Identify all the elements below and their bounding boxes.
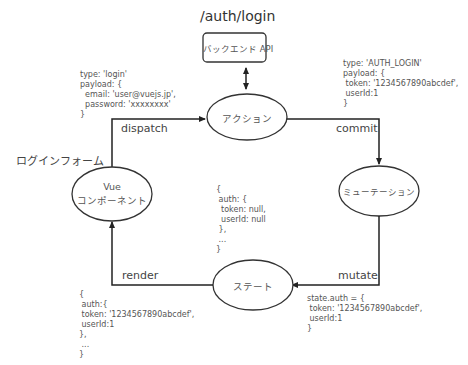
state-label: ステート: [213, 279, 293, 293]
vue-label-line1: Vue: [72, 181, 152, 192]
backend-api-label: バックエンド API: [203, 42, 266, 54]
initial-state-code: { auth: { token: null, userId: null }, .…: [216, 185, 266, 255]
dispatch-payload-code: type: 'login' payload: { email: 'user@vu…: [80, 70, 176, 120]
mutate-code: state.auth = { token: '1234567890abcdef'…: [307, 294, 422, 334]
render-state-code: { auth:{ token: '1234567890abcdef', user…: [79, 290, 194, 360]
commit-payload-code: type: 'AUTH_LOGIN' payload: { token: '12…: [343, 59, 458, 109]
commit-label: commit: [336, 122, 378, 135]
mutate-label: mutate: [338, 269, 378, 282]
mutation-label: ミューテーション: [339, 185, 419, 197]
vue-label-line2: コンポーネント: [72, 193, 152, 207]
render-label: render: [122, 269, 158, 282]
dispatch-label: dispatch: [121, 122, 168, 135]
login-form-label: ログインフォーム: [16, 152, 104, 168]
endpoint-label: /auth/login: [200, 8, 275, 24]
action-label: アクション: [207, 111, 287, 125]
